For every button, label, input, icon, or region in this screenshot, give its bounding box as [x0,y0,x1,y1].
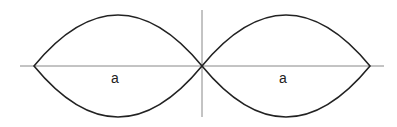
left-lens-label: a [111,70,119,86]
right-lens-label: a [279,70,287,86]
lens-diagram: a a [0,0,397,127]
